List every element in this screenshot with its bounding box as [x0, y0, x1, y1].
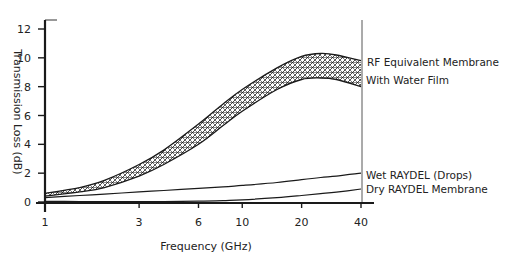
y-axis: 024681012 Transmission Loss (dB)	[11, 20, 45, 212]
x-ticks: 136102040	[42, 203, 369, 229]
transmission-loss-chart: 024681012 Transmission Loss (dB) 1361020…	[0, 0, 516, 266]
y-tick-label: 2	[24, 167, 31, 180]
y-tick-label: 8	[24, 81, 31, 94]
x-axis-title: Frequency (GHz)	[160, 240, 251, 253]
y-tick-label: 0	[24, 196, 31, 209]
x-tick-label: 10	[235, 216, 249, 229]
x-axis: 136102040 Frequency (GHz)	[36, 203, 374, 253]
x-tick-label: 6	[195, 216, 202, 229]
label-water-film: With Water Film	[366, 74, 449, 86]
x-tick-label: 1	[42, 216, 49, 229]
x-tick-label: 20	[295, 216, 309, 229]
x-tick-label: 40	[354, 216, 368, 229]
y-tick-label: 4	[24, 138, 31, 151]
y-tick-label: 6	[24, 110, 31, 123]
rf-equivalent-band	[45, 53, 361, 196]
label-dry-raydel: Dry RAYDEL Membrane	[366, 183, 488, 195]
y-tick-label: 12	[17, 23, 31, 36]
y-axis-title: Transmission Loss (dB)	[11, 48, 24, 174]
label-wet-raydel: Wet RAYDEL (Drops)	[366, 169, 472, 181]
hatched-band-fill	[45, 53, 361, 196]
label-rf-equivalent: RF Equivalent Membrane	[367, 56, 499, 68]
plot-frame	[45, 20, 362, 203]
x-tick-label: 3	[136, 216, 143, 229]
series-labels: RF Equivalent Membrane With Water Film W…	[366, 56, 499, 195]
